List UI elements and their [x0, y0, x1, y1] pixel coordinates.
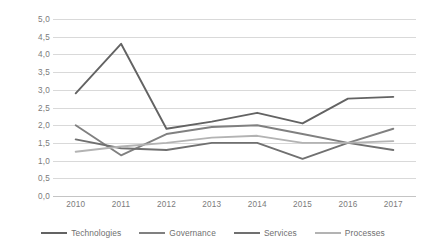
plot-area: 0,00,51,01,52,02,53,03,54,04,55,0 201020…	[0, 0, 426, 205]
legend-item[interactable]: Processes	[315, 228, 385, 238]
series-layer	[0, 0, 426, 205]
legend-swatch-icon	[315, 232, 341, 235]
line-chart: 0,00,51,01,52,02,53,03,54,04,55,0 201020…	[0, 0, 426, 249]
legend-item[interactable]: Technologies	[41, 228, 121, 238]
legend-label: Processes	[345, 228, 385, 238]
legend-swatch-icon	[234, 232, 260, 235]
legend-label: Governance	[169, 228, 216, 238]
legend-label: Technologies	[71, 228, 121, 238]
chart-legend: TechnologiesGovernanceServicesProcesses	[0, 224, 426, 242]
series-line	[76, 44, 394, 129]
legend-swatch-icon	[41, 232, 67, 235]
legend-label: Services	[264, 228, 297, 238]
legend-item[interactable]: Governance	[139, 228, 216, 238]
series-line	[76, 125, 394, 155]
legend-swatch-icon	[139, 232, 165, 235]
legend-item[interactable]: Services	[234, 228, 297, 238]
